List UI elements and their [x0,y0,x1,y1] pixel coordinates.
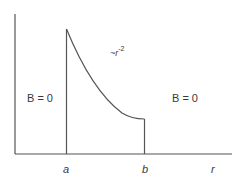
curve-label-exponent: -2 [118,45,124,52]
region-left-label: B = 0 [27,93,53,104]
region-right-label: B = 0 [172,93,198,104]
tick-label-b: b [142,164,148,175]
curve-label: ~r-2 [110,45,125,58]
field-profile-diagram: B = 0 B = 0 ~r-2 a b r [0,0,244,183]
tick-label-a: a [63,164,69,175]
x-axis-label: r [211,164,215,175]
inverse-square-curve [67,29,145,119]
